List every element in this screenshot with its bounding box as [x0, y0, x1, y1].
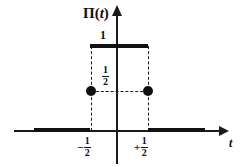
x-tick-label-positive-half: +12: [134, 136, 148, 158]
dashed-guide-midlevel: [91, 91, 148, 92]
fraction-denominator: 2: [102, 76, 109, 88]
fraction-numerator: 1: [84, 136, 91, 147]
fraction-one-half: 12: [102, 65, 109, 87]
fraction-numerator: 1: [102, 65, 109, 76]
fraction-numerator: 1: [141, 136, 148, 147]
fraction-denominator: 2: [141, 147, 148, 159]
fraction-one-half: 12: [84, 136, 91, 158]
x-axis-arrow-icon: [219, 126, 229, 136]
function-label-close-paren: ): [104, 5, 109, 21]
rect-function-figure: Π(t) 1 12 −12 +12 t: [0, 0, 246, 167]
function-label: Π(t): [83, 6, 109, 21]
y-axis-line: [116, 14, 118, 164]
y-axis-arrow-icon: [112, 5, 122, 16]
plus-sign: +: [134, 142, 140, 153]
x-tick-label-negative-half: −12: [77, 136, 91, 158]
midpoint-label: 12: [102, 65, 109, 87]
amplitude-label: 1: [100, 29, 106, 41]
data-point-right: [143, 86, 153, 96]
function-label-symbol: Π: [83, 5, 95, 21]
fraction-denominator: 2: [84, 147, 91, 159]
fraction-one-half: 12: [141, 136, 148, 158]
trace-segment-right: [148, 128, 205, 132]
data-point-left: [86, 86, 96, 96]
trace-segment-left: [34, 128, 90, 132]
minus-sign: −: [77, 142, 83, 153]
x-axis-label: t: [229, 137, 232, 149]
trace-segment-top: [90, 44, 148, 48]
